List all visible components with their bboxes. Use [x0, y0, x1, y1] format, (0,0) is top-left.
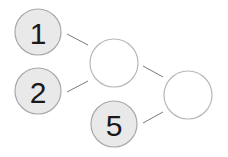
- number-circle-5: 5: [91, 101, 137, 147]
- empty-answer-circle-sum1[interactable]: [90, 39, 138, 87]
- connector-line-n1-to-sum1: [67, 34, 88, 45]
- empty-answer-circle-sum2[interactable]: [164, 71, 212, 119]
- circle-shape: [164, 71, 212, 119]
- node-number-label: 2: [30, 76, 47, 109]
- connector-line-sum1-to-sum2: [143, 66, 163, 77]
- bond-nodes: 125: [15, 9, 212, 147]
- circle-shape: [90, 39, 138, 87]
- number-circle-1: 1: [15, 9, 61, 55]
- node-number-label: 5: [106, 109, 123, 142]
- number-circle-2: 2: [15, 68, 61, 114]
- number-bond-diagram: 125: [0, 0, 228, 157]
- connector-line-n5-to-sum2: [143, 112, 163, 123]
- connector-line-n2-to-sum1: [67, 81, 88, 92]
- node-number-label: 1: [30, 17, 47, 50]
